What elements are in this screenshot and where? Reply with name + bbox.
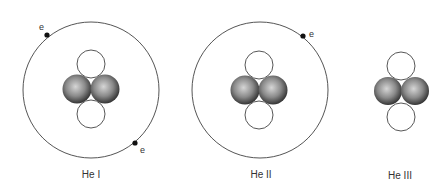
electron-label: e [39, 22, 44, 32]
nucleus [231, 51, 288, 129]
proton-right [91, 75, 120, 104]
proton-left [374, 77, 402, 105]
nucleus [63, 50, 120, 128]
neutron-top [387, 52, 415, 80]
electron-icon [44, 32, 49, 37]
proton-right [401, 77, 429, 105]
proton-left [231, 76, 260, 105]
electron-icon [132, 140, 137, 145]
proton-right [259, 76, 288, 105]
electron-label: e [140, 145, 145, 155]
neutron-top [77, 50, 105, 78]
electron-icon [300, 33, 305, 38]
neutron-bottom [77, 100, 105, 128]
atom-he-ii: e He II [192, 22, 328, 180]
electron-label: e [309, 29, 314, 39]
proton-left [63, 75, 92, 104]
atom-label: He II [250, 169, 271, 180]
atom-label: He I [82, 169, 100, 180]
atom-label: He III [388, 170, 412, 181]
atom-he-i: e e He I [23, 22, 159, 180]
helium-ionization-diagram: e e He I e He II He III [0, 0, 443, 190]
atom-he-iii: He III [374, 52, 429, 181]
neutron-bottom [245, 101, 273, 129]
nucleus [374, 52, 429, 131]
neutron-top [245, 51, 273, 79]
neutron-bottom [387, 103, 415, 131]
